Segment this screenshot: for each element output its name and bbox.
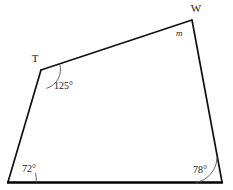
quadrilateral-edges xyxy=(8,20,222,182)
vertex-label-w: W xyxy=(191,2,202,14)
vertex-label-t: T xyxy=(32,52,39,64)
angle-label-bottom-right: 78° xyxy=(193,164,207,175)
angle-label-w-variable: m xyxy=(176,28,183,38)
quadrilateral-diagram: T W 72° 125° m 78° xyxy=(0,0,233,190)
edge-t-to-w xyxy=(41,20,192,70)
edge-w-to-bottomright xyxy=(192,20,222,182)
angle-label-bottom-left: 72° xyxy=(22,163,36,174)
arc-bottom-left xyxy=(36,173,37,183)
angle-label-t: 125° xyxy=(54,80,73,91)
geometry-figure: T W 72° 125° m 78° xyxy=(0,0,233,190)
